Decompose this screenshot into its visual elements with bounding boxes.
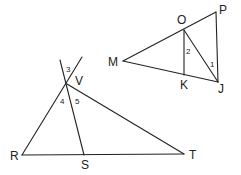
segment-vt xyxy=(67,84,184,154)
angle-label-5: 5 xyxy=(75,97,80,106)
segment-rt xyxy=(22,154,184,155)
figure-rvt: V R S T 3 4 5 xyxy=(10,57,197,172)
label-p: P xyxy=(219,3,227,17)
label-v: V xyxy=(75,74,83,88)
segment-rv-extended xyxy=(22,57,82,155)
angle-label-4: 4 xyxy=(60,97,65,106)
segment-mj xyxy=(123,61,218,82)
segment-oj xyxy=(184,30,218,82)
label-o: O xyxy=(177,13,186,27)
angle-label-2: 2 xyxy=(186,47,191,56)
figure-mpj: M O P K J 2 1 xyxy=(108,3,227,96)
segment-mp xyxy=(123,12,216,61)
label-j: J xyxy=(218,82,224,96)
label-r: R xyxy=(10,149,19,163)
label-t: T xyxy=(189,148,197,162)
angle-label-3: 3 xyxy=(66,65,71,74)
segment-pj xyxy=(216,12,218,82)
angle-label-1: 1 xyxy=(210,60,215,69)
geometry-diagram: M O P K J 2 1 V R S T 3 4 5 xyxy=(0,0,241,175)
label-k: K xyxy=(180,78,188,92)
label-s: S xyxy=(81,158,89,172)
label-m: M xyxy=(108,55,118,69)
